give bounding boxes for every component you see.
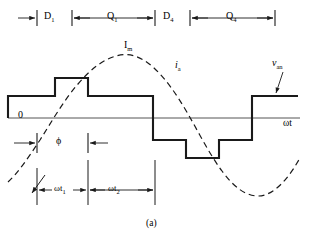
van-leader-arrow	[276, 72, 283, 93]
label-phase-angle: ϕ	[56, 136, 61, 146]
waveform-figure	[0, 0, 310, 243]
label-peak-current: Im	[124, 40, 132, 53]
label-omega-t1: ωt1	[54, 184, 66, 195]
label-q1: Q1	[107, 11, 117, 24]
omega-t-dimensions	[32, 160, 155, 205]
label-origin: 0	[18, 110, 23, 120]
label-x-axis: ωt	[283, 119, 292, 129]
label-d4: D4	[163, 11, 173, 24]
label-q4: Q4	[226, 11, 236, 24]
label-d1: D1	[44, 11, 54, 24]
label-omega-t2: ωt2	[108, 184, 120, 195]
label-voltage-wave: van	[272, 58, 283, 71]
figure-caption: (a)	[146, 219, 157, 229]
label-current-wave: ia	[175, 60, 181, 73]
